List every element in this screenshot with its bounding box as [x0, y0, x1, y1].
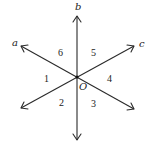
angle-label-3: 3 — [91, 98, 96, 109]
angle-label-2: 2 — [59, 97, 64, 108]
line-label-a: a — [12, 37, 18, 48]
angle-label-5: 5 — [91, 47, 96, 58]
angle-label-4: 4 — [107, 73, 112, 84]
angle-label-1: 1 — [44, 73, 49, 84]
intersecting-lines-diagram: a b c O 1 2 3 4 5 6 — [0, 0, 154, 145]
center-label: O — [79, 81, 87, 92]
angle-label-6: 6 — [58, 47, 63, 58]
line-label-b: b — [75, 1, 81, 12]
center-point-o — [75, 75, 78, 78]
line-label-c: c — [139, 38, 145, 49]
